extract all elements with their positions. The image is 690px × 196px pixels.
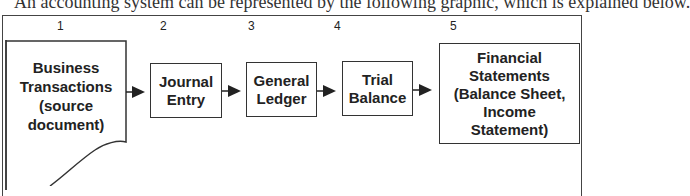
arrow-icon: [126, 85, 146, 99]
arrow-icon: [317, 84, 337, 98]
arrow-icon: [413, 83, 433, 97]
step-1-label: Business Transactions (source document): [8, 58, 124, 134]
step-5-label: Financial Statements (Balance Sheet, Inc…: [454, 49, 566, 139]
step-4-label: Trial Balance: [349, 71, 407, 106]
step-4-box: Trial Balance: [342, 61, 413, 116]
step-5-box: Financial Statements (Balance Sheet, Inc…: [439, 43, 580, 144]
step-3-box: General Ledger: [246, 62, 317, 117]
step-2-label: Journal Entry: [159, 73, 213, 108]
arrow-icon: [222, 84, 242, 98]
step-3-label: General Ledger: [254, 72, 310, 107]
step-2-box: Journal Entry: [150, 63, 222, 118]
